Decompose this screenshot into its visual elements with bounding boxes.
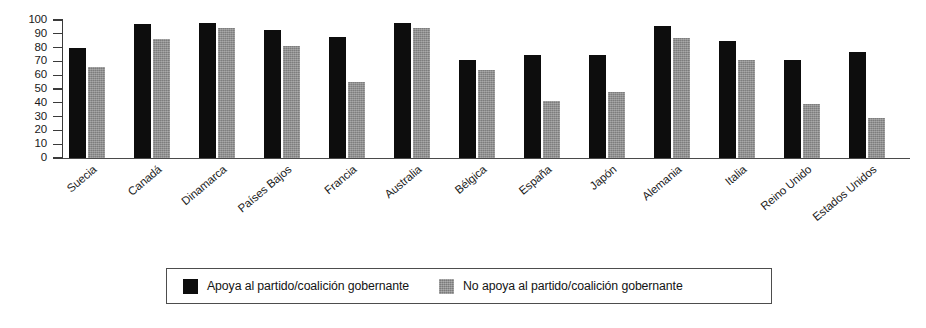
y-axis-tick-label: 70 <box>35 55 47 67</box>
bar-supports <box>524 55 541 159</box>
y-axis-tick <box>53 144 63 145</box>
x-axis-label: Suecia <box>65 163 99 194</box>
y-axis-tick <box>53 33 63 34</box>
bar-supports <box>199 23 216 158</box>
y-axis-tick-label: 40 <box>35 97 47 109</box>
bar-does-not-support <box>738 60 755 158</box>
bar-supports <box>394 23 411 158</box>
x-axis-label: Dinamarca <box>179 163 229 207</box>
bar-does-not-support <box>868 118 885 158</box>
x-axis-label: Estados Unidos <box>810 163 878 223</box>
plot-area <box>63 20 908 158</box>
x-axis-label: Francia <box>322 163 359 196</box>
y-axis-tick-label: 0 <box>41 152 47 164</box>
x-axis-label: Países Bajos <box>236 163 294 215</box>
legend-swatch-gray <box>439 279 454 294</box>
bar-group <box>394 20 430 158</box>
bar-group <box>524 20 560 158</box>
x-axis-label: Japón <box>587 163 618 192</box>
bar-supports <box>264 30 281 158</box>
y-axis-tick-label: 20 <box>35 124 47 136</box>
bar-group <box>719 20 755 158</box>
legend-label: No apoya al partido/coalición gobernante <box>463 279 683 293</box>
bar-group <box>459 20 495 158</box>
bar-does-not-support <box>88 67 105 158</box>
y-axis-tick <box>53 157 63 158</box>
bar-does-not-support <box>413 28 430 158</box>
bar-does-not-support <box>153 39 170 158</box>
bar-group <box>134 20 170 158</box>
bar-group <box>589 20 625 158</box>
y-axis-tick <box>53 47 63 48</box>
bar-supports <box>329 37 346 158</box>
bar-group <box>264 20 300 158</box>
bar-chart-figure: 0102030405060708090100 SueciaCanadáDinam… <box>0 0 926 328</box>
y-axis-tick-label: 50 <box>35 83 47 95</box>
legend-label: Apoya al partido/coalición gobernante <box>207 279 409 293</box>
bar-does-not-support <box>543 101 560 158</box>
legend-item: Apoya al partido/coalición gobernante <box>183 279 409 294</box>
y-axis-tick <box>53 88 63 89</box>
bar-does-not-support <box>608 92 625 158</box>
x-axis-label: España <box>517 163 554 197</box>
bar-group <box>329 20 365 158</box>
x-axis-label: Italia <box>723 163 749 187</box>
bar-does-not-support <box>478 70 495 158</box>
x-axis-label: Bélgica <box>453 163 489 196</box>
bar-supports <box>719 41 736 158</box>
bar-group <box>654 20 690 158</box>
y-axis-tick-label: 60 <box>35 69 47 81</box>
y-axis-tick-label: 80 <box>35 42 47 54</box>
bar-group <box>199 20 235 158</box>
y-axis-tick-label: 10 <box>35 138 47 150</box>
y-axis-tick <box>53 130 63 131</box>
bar-supports <box>784 60 801 158</box>
bar-does-not-support <box>803 104 820 158</box>
bar-group <box>69 20 105 158</box>
bar-does-not-support <box>283 46 300 158</box>
x-axis-label: Australia <box>382 163 423 200</box>
bar-supports <box>849 52 866 158</box>
y-axis-tick <box>53 61 63 62</box>
legend-swatch-black <box>183 279 198 294</box>
y-axis-tick <box>53 102 63 103</box>
y-axis-tick-label: 100 <box>28 14 47 26</box>
bar-supports <box>654 26 671 158</box>
bar-group <box>784 20 820 158</box>
bar-supports <box>459 60 476 158</box>
bar-group <box>849 20 885 158</box>
x-axis-label: Reino Unido <box>758 163 813 212</box>
y-axis-tick <box>53 75 63 76</box>
bar-supports <box>589 55 606 159</box>
bar-does-not-support <box>348 82 365 158</box>
chart-legend: Apoya al partido/coalición gobernanteNo … <box>166 268 772 304</box>
bar-supports <box>134 24 151 158</box>
x-axis-label: Alemania <box>640 163 684 203</box>
y-axis-tick-label: 30 <box>35 111 47 123</box>
legend-item: No apoya al partido/coalición gobernante <box>439 279 683 294</box>
y-axis-tick <box>53 19 63 20</box>
y-axis-tick-label: 90 <box>35 28 47 40</box>
bar-supports <box>69 48 86 158</box>
bar-does-not-support <box>673 38 690 158</box>
bar-does-not-support <box>218 28 235 158</box>
legend-row: Apoya al partido/coalición gobernanteNo … <box>167 269 771 303</box>
y-axis-tick <box>53 116 63 117</box>
x-axis-label: Canadá <box>126 163 164 198</box>
